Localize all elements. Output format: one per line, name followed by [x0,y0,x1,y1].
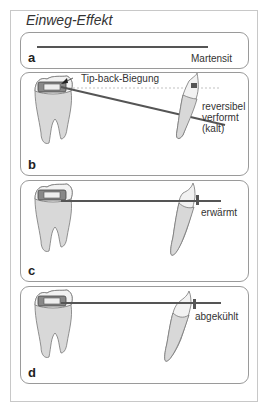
panel-label-a: a [28,50,35,65]
incisor-icon [171,183,199,255]
annotation-verformt: verformt (kalt) [202,112,248,134]
molar-icon [35,290,72,358]
molar-icon [35,76,72,144]
panel-d: abgekühlt d [20,286,249,384]
panel-b: Tip-back-Biegung reversibel verformt (ka… [20,72,249,176]
panel-c: erwärmt c [20,180,249,282]
panel-label-b: b [28,157,36,172]
annotation-erwaermt: erwärmt [201,207,237,218]
figure-title: Einweg-Effekt [26,12,112,28]
annotation-abgekuehlt: abgekühlt [195,311,238,322]
panel-label-c: c [28,263,35,278]
incisor-icon [165,291,196,361]
callout-tip-back: Tip-back-Biegung [81,73,159,84]
annotation-martensit: Martensit [191,53,232,64]
annotation-reversibel: reversibel [202,101,245,112]
molar-icon [35,184,72,252]
panel-label-d: d [28,365,36,380]
straight-wire [21,33,250,70]
deformed-wire [61,87,225,125]
incisor-icon [176,73,198,138]
panel-a: Martensit a [20,32,249,69]
